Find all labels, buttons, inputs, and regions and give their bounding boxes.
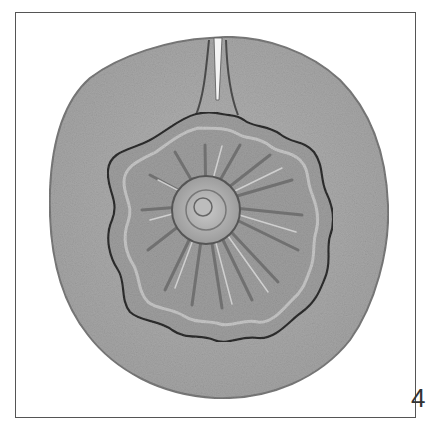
panel-label: 4 (411, 385, 425, 411)
fossil-seal-image (0, 0, 446, 429)
fossil-core (172, 176, 240, 244)
